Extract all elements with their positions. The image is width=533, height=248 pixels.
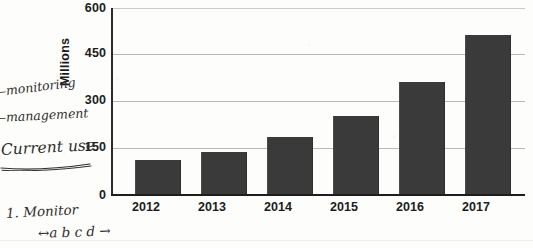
gridline-600 bbox=[113, 8, 525, 9]
x-tick-2013: 2013 bbox=[179, 200, 245, 214]
x-tick-2015: 2015 bbox=[311, 200, 377, 214]
x-tick-2014: 2014 bbox=[245, 200, 311, 214]
bar-2014[interactable] bbox=[267, 137, 313, 194]
y-axis-line bbox=[111, 8, 113, 196]
annotation-monitoring: ‒monitoring bbox=[0, 75, 76, 99]
plot-area bbox=[111, 8, 525, 196]
bar-2015[interactable] bbox=[333, 116, 379, 194]
scanned-chart-page: 600 450 300 150 0 Millions 2012 2013 201… bbox=[0, 0, 533, 248]
y-tick-600: 600 bbox=[85, 1, 106, 15]
gridline-150 bbox=[113, 148, 525, 149]
annotation-list-item-monitor: 1. Monitor bbox=[6, 201, 79, 221]
bar-2012[interactable] bbox=[135, 160, 181, 194]
x-axis-line bbox=[111, 194, 525, 196]
y-tick-450: 450 bbox=[85, 46, 106, 60]
annotation-sub-item-abcd: ↔a b c d → bbox=[38, 222, 111, 241]
x-tick-2012: 2012 bbox=[113, 200, 179, 214]
y-tick-0: 0 bbox=[99, 188, 106, 202]
gridline-300 bbox=[113, 101, 525, 102]
bar-2017[interactable] bbox=[465, 35, 511, 194]
handwritten-underline-icon bbox=[0, 163, 92, 171]
paper-fold-line bbox=[0, 240, 533, 241]
bar-2016[interactable] bbox=[399, 82, 445, 194]
x-tick-2016: 2016 bbox=[377, 200, 443, 214]
gridline-450 bbox=[113, 54, 525, 55]
x-tick-2017: 2017 bbox=[443, 200, 509, 214]
bar-2013[interactable] bbox=[201, 152, 247, 195]
